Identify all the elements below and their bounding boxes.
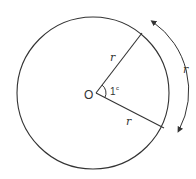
radius-upper: [96, 33, 142, 93]
radius-label-lower: r: [126, 115, 132, 128]
radian-diagram: O 1 c r r r: [0, 0, 196, 179]
arc-length-arrow: [153, 22, 189, 130]
angle-superscript: c: [116, 85, 119, 91]
center-label: O: [84, 88, 93, 102]
arc-length-label: r: [183, 63, 189, 76]
radius-label-upper: r: [110, 51, 116, 64]
angle-arc: [102, 85, 106, 98]
